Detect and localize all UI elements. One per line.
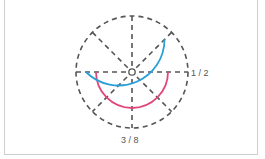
center-point (129, 69, 135, 75)
fraction-circle-diagram: 1 / 2 3 / 8 (0, 0, 265, 159)
label-one-half: 1 / 2 (191, 68, 209, 78)
label-three-eighths: 3 / 8 (121, 135, 139, 145)
